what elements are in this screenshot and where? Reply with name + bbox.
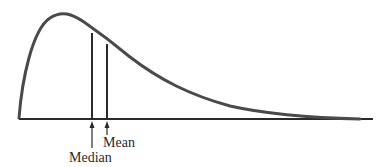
distribution-curve	[19, 14, 360, 119]
median-arrow-icon	[90, 121, 95, 148]
median-label: Median	[69, 150, 112, 165]
skewed-distribution-diagram: Mean Median	[0, 0, 391, 167]
mean-arrow-icon	[105, 121, 110, 135]
mean-label: Mean	[103, 135, 135, 150]
